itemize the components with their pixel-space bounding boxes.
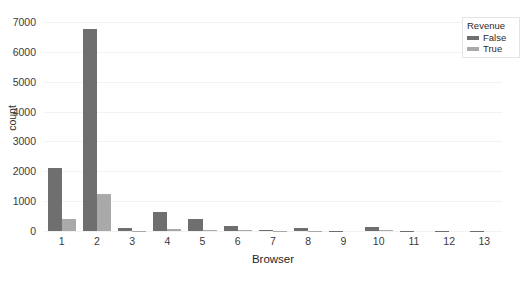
legend-item-label: False <box>483 32 506 43</box>
bar <box>238 230 252 231</box>
bar <box>224 226 238 231</box>
x-axis-tick-label: 2 <box>82 234 112 248</box>
bar <box>48 168 62 231</box>
legend-title: Revenue <box>467 20 514 31</box>
legend-item: True <box>467 43 514 54</box>
x-axis-tick-label: 3 <box>117 234 147 248</box>
gridline <box>44 82 502 83</box>
gridline <box>44 171 502 172</box>
legend-item-label: True <box>483 43 502 54</box>
x-axis-tick-label: 5 <box>188 234 218 248</box>
x-axis-tick-label: 10 <box>364 234 394 248</box>
y-axis-tick-label: 0 <box>30 226 36 236</box>
gridline <box>44 141 502 142</box>
bar <box>203 230 217 231</box>
chart-figure: 01000200030004000500060007000 count 1234… <box>0 0 524 284</box>
gridline <box>44 201 502 202</box>
y-axis-tick-label: 1000 <box>13 196 36 206</box>
legend-item: False <box>467 32 514 43</box>
gridline <box>44 112 502 113</box>
bar <box>97 194 111 231</box>
legend-swatch-icon <box>467 47 479 51</box>
x-axis-label: Browser <box>44 253 502 265</box>
bar <box>153 212 167 231</box>
bar <box>188 219 202 231</box>
legend-swatch-icon <box>467 36 479 40</box>
y-axis-tick-label: 5000 <box>13 77 36 87</box>
bar <box>294 228 308 231</box>
legend-entries: FalseTrue <box>467 32 514 54</box>
x-axis-tick-label: 4 <box>152 234 182 248</box>
x-axis-tick-label: 12 <box>434 234 464 248</box>
gridline <box>44 52 502 53</box>
bar <box>167 229 181 231</box>
bar <box>83 29 97 231</box>
plot-area <box>44 22 502 231</box>
x-axis-tick-label: 1 <box>47 234 77 248</box>
x-axis-tick-label: 13 <box>469 234 499 248</box>
chart-title <box>56 0 356 4</box>
x-axis-tick-label: 7 <box>258 234 288 248</box>
y-axis-label: count <box>6 88 18 148</box>
gridline <box>44 231 502 232</box>
y-axis-tick-label: 6000 <box>13 47 36 57</box>
x-axis-tick-label: 6 <box>223 234 253 248</box>
bar <box>365 227 379 231</box>
bar <box>118 228 132 231</box>
x-axis-tick-label: 8 <box>293 234 323 248</box>
x-axis-tick-labels: 12345678910111213 <box>44 234 502 250</box>
legend: Revenue FalseTrue <box>462 17 520 58</box>
x-axis-tick-label: 11 <box>399 234 429 248</box>
bar <box>259 230 273 231</box>
x-axis-tick-label: 9 <box>328 234 358 248</box>
bar <box>62 219 76 231</box>
y-axis-tick-label: 7000 <box>13 17 36 27</box>
gridline <box>44 22 502 23</box>
y-axis-tick-label: 2000 <box>13 166 36 176</box>
bar <box>379 230 393 231</box>
